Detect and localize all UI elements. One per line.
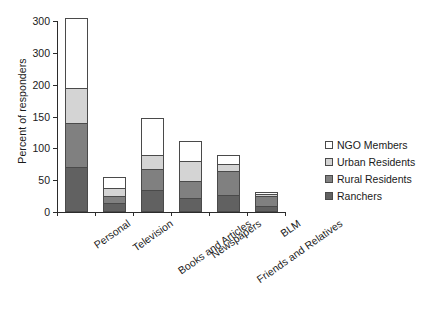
bar-segment[interactable] xyxy=(65,123,88,168)
y-tick-label: 50 xyxy=(38,174,50,186)
x-tick-label: Television xyxy=(130,217,175,253)
y-axis-title: Percent of responders xyxy=(16,31,28,191)
legend-item[interactable]: NGO Members xyxy=(325,136,415,153)
plot-area: 050100150200300300 PersonalTelevisionBoo… xyxy=(57,21,285,212)
bar-segment[interactable] xyxy=(103,177,126,188)
bar-segment[interactable] xyxy=(65,18,88,88)
bar-stack[interactable] xyxy=(103,177,126,212)
bar-segment[interactable] xyxy=(255,206,278,212)
bar-stack[interactable] xyxy=(179,141,202,212)
bar-segment[interactable] xyxy=(217,164,240,172)
bar-segment[interactable] xyxy=(179,141,202,161)
legend-label: Rural Residents xyxy=(337,173,412,185)
legend-swatch xyxy=(325,141,333,149)
bar-segment[interactable] xyxy=(179,198,202,212)
y-tick-mark xyxy=(53,180,57,181)
y-axis-line xyxy=(57,21,58,213)
y-tick-label: 100 xyxy=(32,142,50,154)
legend-label: Urban Residents xyxy=(337,156,415,168)
chart-legend: NGO MembersUrban ResidentsRural Resident… xyxy=(325,136,415,204)
bar-segment[interactable] xyxy=(179,161,202,181)
y-tick-label: 200 xyxy=(32,79,50,91)
y-tick-label: 300 xyxy=(32,15,50,27)
bar-segment[interactable] xyxy=(255,196,278,206)
legend-label: Ranchers xyxy=(337,190,382,202)
legend-item[interactable]: Ranchers xyxy=(325,187,415,204)
bar-segment[interactable] xyxy=(65,88,88,123)
x-tick-mark xyxy=(57,212,58,216)
x-tick-label: BLM xyxy=(278,217,303,239)
bar-segment[interactable] xyxy=(103,188,126,196)
y-tick-label: 150 xyxy=(32,111,50,123)
legend-item[interactable]: Rural Residents xyxy=(325,170,415,187)
bar-segment[interactable] xyxy=(141,190,164,212)
bar-segment[interactable] xyxy=(217,171,240,195)
bar-segment[interactable] xyxy=(179,181,202,198)
bar-stack[interactable] xyxy=(65,18,88,212)
y-tick-mark xyxy=(53,85,57,86)
bar-segment[interactable] xyxy=(103,203,126,212)
bar-stack[interactable] xyxy=(255,192,278,212)
bar-segment[interactable] xyxy=(217,195,240,212)
x-tick-mark xyxy=(171,212,172,216)
y-tick-mark xyxy=(53,117,57,118)
y-tick-mark xyxy=(53,21,57,22)
legend-label: NGO Members xyxy=(337,139,408,151)
x-tick-mark xyxy=(285,212,286,216)
legend-swatch xyxy=(325,175,333,183)
y-tick-mark xyxy=(53,148,57,149)
bar-stack[interactable] xyxy=(141,118,164,212)
x-tick-mark xyxy=(209,212,210,216)
bar-segment[interactable] xyxy=(103,196,126,203)
x-tick-mark xyxy=(133,212,134,216)
y-tick-label: 0 xyxy=(44,206,50,218)
bar-segment[interactable] xyxy=(217,155,240,164)
legend-item[interactable]: Urban Residents xyxy=(325,153,415,170)
x-tick-mark xyxy=(247,212,248,216)
x-tick-label: Personal xyxy=(91,217,132,251)
bar-segment[interactable] xyxy=(141,118,164,155)
stacked-bar-chart: Percent of responders 050100150200300300… xyxy=(0,0,429,323)
legend-swatch xyxy=(325,158,333,166)
y-tick-mark xyxy=(53,53,57,54)
bar-segment[interactable] xyxy=(65,167,88,212)
bar-segment[interactable] xyxy=(141,155,164,169)
bar-segment[interactable] xyxy=(141,169,164,190)
legend-swatch xyxy=(325,192,333,200)
y-tick-label: 300 xyxy=(32,47,50,59)
bar-stack[interactable] xyxy=(217,155,240,212)
x-tick-mark xyxy=(95,212,96,216)
